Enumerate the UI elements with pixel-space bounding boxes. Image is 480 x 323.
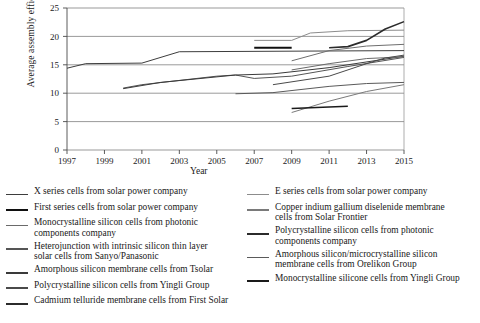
legend-item[interactable]: E series cells from solar power company <box>247 186 480 199</box>
x-tick-label: 2013 <box>358 156 377 166</box>
y-tick-label: 0 <box>55 145 60 155</box>
series-line-8 <box>236 82 405 93</box>
legend-swatch-icon <box>6 284 28 293</box>
series-line-10 <box>292 106 348 108</box>
figure-root: 1997199920012003200520072009201120132015… <box>0 0 480 323</box>
chart-legend: X series cells from solar power companyF… <box>0 186 480 323</box>
legend-item[interactable]: Monocrystalline silicone cells from Ying… <box>247 273 480 286</box>
legend-swatch-icon <box>6 245 28 254</box>
x-tick-label: 1997 <box>58 156 77 166</box>
x-tick-label: 2011 <box>320 156 338 166</box>
y-tick-label: 5 <box>55 117 60 127</box>
legend-label: First series cells from solar power comp… <box>34 202 198 213</box>
legend-label: Cadmium telluride membrane cells from Fi… <box>34 295 228 306</box>
legend-column-right: E series cells from solar power companyC… <box>247 186 480 323</box>
legend-item[interactable]: Copper indium gallium diselenide membran… <box>247 202 480 223</box>
legend-item[interactable]: Polycrystalline silicon cells from Yingl… <box>6 280 247 293</box>
y-tick-label: 25 <box>50 3 60 13</box>
legend-swatch-icon <box>247 206 269 215</box>
legend-item[interactable]: X series cells from solar power company <box>6 186 247 199</box>
legend-swatch-icon <box>6 299 28 308</box>
legend-label: Heterojunction with intrinsic silicon th… <box>34 241 208 262</box>
legend-swatch-icon <box>6 206 28 215</box>
legend-swatch-icon <box>6 190 28 199</box>
legend-label: Amorphous silicon membrane cells from Ts… <box>34 264 213 275</box>
legend-label: Copper indium gallium diselenide membran… <box>275 202 445 223</box>
legend-item[interactable]: Polycrystalline silicon cells from photo… <box>247 225 480 246</box>
legend-label: Amorphous silicon/microcrystalline silic… <box>275 249 437 270</box>
y-tick-label: 15 <box>50 60 60 70</box>
x-tick-label: 2007 <box>245 156 264 166</box>
y-tick-label: 20 <box>50 32 60 42</box>
legend-item[interactable]: Heterojunction with intrinsic silicon th… <box>6 241 247 262</box>
legend-label: Polycrystalline silicon cells from Yingl… <box>34 280 209 291</box>
y-axis-title: Average assembly efficiency (%) <box>26 0 36 98</box>
legend-swatch-icon <box>247 253 269 262</box>
legend-item[interactable]: First series cells from solar power comp… <box>6 202 247 215</box>
legend-swatch-icon <box>247 277 269 286</box>
legend-swatch-icon <box>247 229 269 238</box>
chart-plot-area: 1997199920012003200520072009201120132015… <box>0 0 480 182</box>
x-tick-label: 2005 <box>208 156 227 166</box>
x-tick-label: 2009 <box>283 156 302 166</box>
legend-column-left: X series cells from solar power companyF… <box>0 186 247 323</box>
legend-label: Monocrystalline silicone cells from Ying… <box>275 273 460 284</box>
x-tick-label: 2015 <box>395 156 414 166</box>
legend-label: E series cells from solar power company <box>275 186 428 197</box>
efficiency-line-chart: 1997199920012003200520072009201120132015… <box>0 0 480 182</box>
legend-item[interactable]: Amorphous silicon/microcrystalline silic… <box>247 249 480 270</box>
x-tick-label: 1999 <box>95 156 114 166</box>
legend-swatch-icon <box>247 190 269 199</box>
legend-swatch-icon <box>6 221 28 230</box>
x-tick-label: 2003 <box>170 156 189 166</box>
legend-swatch-icon <box>6 268 28 277</box>
legend-label: Polycrystalline silicon cells from photo… <box>275 225 434 246</box>
y-tick-label: 10 <box>50 88 60 98</box>
legend-label: Monocrystalline silicon cells from photo… <box>34 217 198 238</box>
legend-item[interactable]: Amorphous silicon membrane cells from Ts… <box>6 264 247 277</box>
legend-item[interactable]: Cadmium telluride membrane cells from Fi… <box>6 295 247 308</box>
legend-label: X series cells from solar power company <box>34 186 188 197</box>
legend-item[interactable]: Monocrystalline silicon cells from photo… <box>6 217 247 238</box>
x-axis-title: Year <box>190 166 208 176</box>
x-tick-label: 2001 <box>133 156 151 166</box>
series-line-5 <box>329 22 404 48</box>
